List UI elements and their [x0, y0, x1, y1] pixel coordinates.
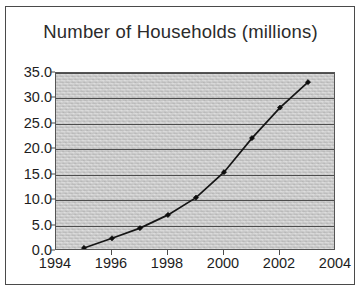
x-tick-label: 1998	[151, 255, 183, 271]
x-tick-label: 2002	[263, 255, 295, 271]
y-tick-label: 15.0	[24, 166, 52, 182]
data-point	[137, 226, 142, 231]
y-tick-label: 25.0	[24, 115, 52, 131]
data-line	[84, 82, 308, 248]
y-tick-label: 10.0	[24, 191, 52, 207]
x-tick-mark	[111, 250, 112, 255]
plot-area	[55, 72, 335, 250]
x-tick-mark	[167, 250, 168, 255]
x-tick-label: 2004	[319, 255, 351, 271]
chart-title: Number of Households (millions)	[0, 21, 361, 43]
x-tick-label: 1994	[39, 255, 71, 271]
data-point	[81, 245, 86, 250]
chart-figure: Number of Households (millions) 0.05.010…	[0, 0, 361, 293]
x-tick-mark	[223, 250, 224, 255]
x-tick-mark	[279, 250, 280, 255]
x-tick-label: 1996	[95, 255, 127, 271]
data-series	[56, 73, 335, 250]
x-tick-label: 2000	[207, 255, 239, 271]
y-tick-label: 20.0	[24, 140, 52, 156]
y-tick-label: 30.0	[24, 89, 52, 105]
data-point	[109, 236, 114, 241]
y-tick-label: 35.0	[24, 64, 52, 80]
y-tick-label: 5.0	[32, 217, 52, 233]
data-markers	[81, 80, 310, 250]
